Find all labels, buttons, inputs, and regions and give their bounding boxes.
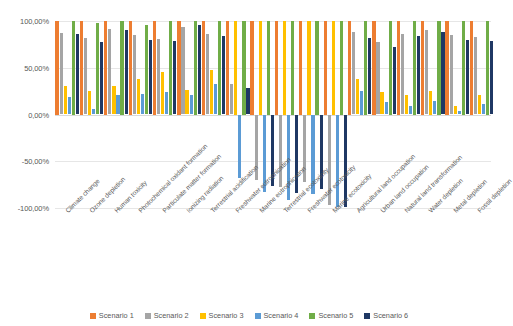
bar [405,95,408,115]
bar [413,21,416,115]
bar-slot [68,21,71,208]
bar [433,101,436,114]
bar-slot [279,21,282,208]
bar [315,21,318,115]
legend-swatch-icon [200,313,206,319]
bar-slot [450,21,453,208]
bar [157,39,160,115]
bar-slot [64,21,67,208]
legend-label: Scenario 1 [99,311,134,320]
legend-label: Scenario 5 [318,311,353,320]
bar [380,92,383,114]
bar [283,21,286,115]
bar [96,23,99,115]
bar [161,72,164,114]
bar [55,21,58,115]
legend-swatch-icon [255,313,261,319]
y-axis-tick-label: 50,00% [24,63,49,72]
bar [218,21,221,115]
y-axis: 100,00%50,00%0,00%-50,00%-100,00% [0,0,55,230]
bar-slot [352,21,355,208]
bar [372,21,375,115]
y-axis-tick-label: 0,00% [28,110,49,119]
legend-label: Scenario 4 [264,311,299,320]
legend-item[interactable]: Scenario 4 [255,311,299,320]
bar [112,86,115,115]
bar [202,21,205,115]
bar-slot [226,21,229,208]
bar [486,21,489,115]
bar [470,21,473,115]
bar [141,94,144,115]
bar [92,109,95,115]
bar-slot [486,21,489,208]
bar [230,84,233,115]
y-axis-tick-label: -100,00% [18,204,49,213]
bar [226,21,229,115]
bar [242,21,245,115]
bar [299,21,302,115]
bar [445,21,448,115]
legend-item[interactable]: Scenario 6 [364,311,408,320]
bar [482,104,485,114]
bar [356,79,359,115]
bar-slot [470,21,473,208]
bar [307,21,310,115]
bar [364,21,367,115]
bar [210,70,213,115]
bar [450,35,453,114]
bar [275,21,278,115]
bar [401,34,404,114]
bar [116,95,119,115]
bar [206,34,209,114]
bar-slot [275,21,278,208]
bar [462,21,465,115]
legend-label: Scenario 6 [373,311,408,320]
bar-slot [421,21,424,208]
bar [133,35,136,114]
bar [421,21,424,115]
bar [490,41,493,115]
bar-slot [177,21,180,208]
bar [60,33,63,114]
bar [194,21,197,115]
bar [324,21,327,115]
bar [234,21,237,115]
legend-swatch-icon [364,313,370,319]
bar [214,84,217,115]
legend-label: Scenario 3 [209,311,244,320]
bar-slot [60,21,63,208]
bar-slot [153,21,156,208]
legend-item[interactable]: Scenario 3 [200,311,244,320]
bar-slot [88,21,91,208]
bar-group [55,21,79,208]
x-axis: Climate changeOzone depletionHuman toxic… [55,209,491,289]
bar-slot [104,21,107,208]
legend-item[interactable]: Scenario 2 [145,311,189,320]
bar [238,115,241,179]
bar [145,25,148,115]
bar-slot [250,21,253,208]
legend-item[interactable]: Scenario 1 [90,311,134,320]
bar [267,21,270,115]
bar-slot [112,21,115,208]
bar-slot [202,21,205,208]
bar-slot [328,21,331,208]
bar-slot [401,21,404,208]
bar [409,106,412,114]
bar [108,29,111,114]
bar [177,21,180,115]
bar [425,30,428,114]
bar-slot [324,21,327,208]
bar [340,21,343,115]
legend-item[interactable]: Scenario 5 [309,311,353,320]
bar [129,21,132,115]
bar [429,91,432,114]
legend: Scenario 1Scenario 2Scenario 3Scenario 4… [0,311,498,320]
bar-slot [299,21,302,208]
bar-slot [133,21,136,208]
bar-slot [84,21,87,208]
bar-slot [445,21,448,208]
bar [72,21,75,115]
